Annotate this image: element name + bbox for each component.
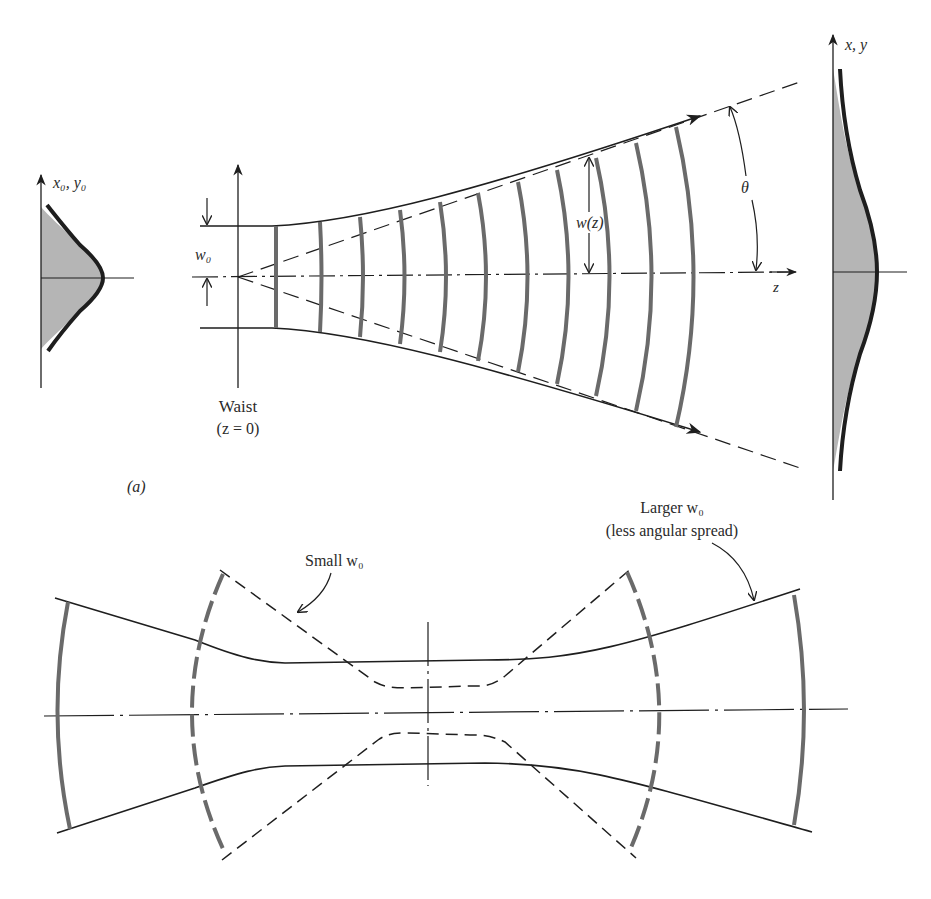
large-waist-wavefront-right: [794, 595, 804, 825]
waist-label: w₀: [195, 246, 211, 263]
small-waist-envelope-upper: [220, 567, 633, 688]
theta-label: θ: [741, 179, 749, 196]
large-waist-label-sub: (less angular spread): [606, 522, 738, 540]
panel-b-optical-axis: [44, 709, 848, 716]
panel-a-label: (a): [127, 478, 146, 496]
gaussian-beam-figure: x₀, y₀ z: [0, 0, 931, 899]
divergence-angle: θ: [730, 107, 757, 270]
large-waist-label: Larger w₀: [640, 499, 703, 517]
output-profile-axis-label: x, y: [844, 36, 868, 54]
output-gaussian-profile: x, y: [833, 35, 907, 500]
large-waist-pointer: [712, 543, 754, 600]
small-waist-pointer: [298, 573, 331, 612]
beam-envelope-lower: [200, 328, 700, 432]
beam-envelope-upper: [200, 116, 700, 226]
small-waist-wavefront-left: [192, 574, 225, 853]
input-gaussian-profile: x₀, y₀: [41, 174, 134, 388]
wavefronts: [276, 127, 694, 427]
waist-caption: Waist: [219, 397, 258, 416]
optical-axis: [192, 272, 790, 277]
small-waist-envelope-lower: [222, 733, 636, 860]
panel-a: x₀, y₀ z: [41, 35, 907, 500]
large-waist-envelope-lower: [57, 763, 812, 833]
waist-dimension: w₀: [195, 198, 211, 306]
waist-caption-z: (z = 0): [217, 420, 260, 438]
panel-b: Small w₀ Larger w₀ (less angular spread): [44, 499, 848, 860]
small-waist-label: Small w₀: [305, 552, 363, 569]
input-profile-axis-label: x₀, y₀: [52, 174, 86, 192]
propagation-axis-label: z: [772, 279, 779, 295]
beam-radius-label: w(z): [576, 214, 604, 232]
